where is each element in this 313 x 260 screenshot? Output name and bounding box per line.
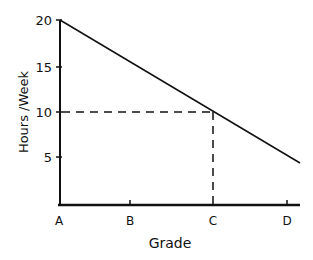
ytick-20: 20 xyxy=(35,13,52,28)
data-line xyxy=(60,20,300,163)
x-axis-label: Grade xyxy=(149,235,192,251)
xtick-d: D xyxy=(282,214,291,228)
y-axis-label: Hours /Week xyxy=(16,70,31,153)
ytick-10: 10 xyxy=(35,105,52,120)
xtick-c: C xyxy=(209,214,217,228)
xtick-b: B xyxy=(126,214,134,228)
line-chart: 20 15 10 5 A B C D Grade Hours /Week xyxy=(0,0,313,260)
ytick-5: 5 xyxy=(44,150,52,165)
xtick-a: A xyxy=(55,214,64,228)
ytick-15: 15 xyxy=(35,60,52,75)
